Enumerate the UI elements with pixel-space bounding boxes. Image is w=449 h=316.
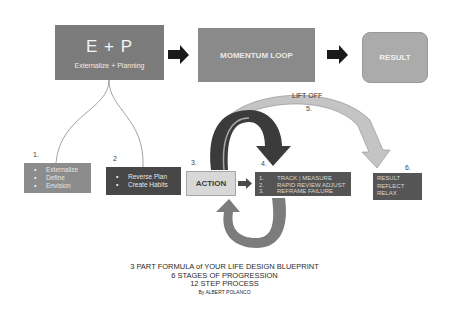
ep-box: E + P Externalize + Planning: [55, 25, 164, 80]
step-1-item: Envision: [34, 182, 87, 190]
branch-line-to-step2: [109, 80, 143, 167]
momentum-loop-box: MOMENTUM LOOP: [198, 28, 315, 82]
step-2-item: Reverse Plan: [116, 173, 177, 181]
arrow-right-small-icon: [238, 178, 252, 189]
action-label: ACTION: [196, 179, 227, 188]
step-6-item: REFLECT: [377, 183, 418, 191]
loop-top-arrow: [210, 110, 291, 170]
step-5-number: 5.: [306, 105, 312, 112]
step-6-number: 6.: [405, 164, 411, 171]
footer-caption: 3 PART FORMULA of YOUR LIFE DESIGN BLUEP…: [0, 263, 449, 296]
momentum-loop-label: MOMENTUM LOOP: [220, 51, 293, 60]
lift-off-arc-arrow: [218, 95, 390, 168]
action-box: ACTION: [186, 171, 236, 196]
footer-line-3: 12 STEP PROCESS: [0, 280, 449, 289]
branch-line-to-step1: [56, 80, 109, 163]
loop-bottom-arrow: [216, 198, 286, 248]
step-1-box: Externalize Define Envision: [24, 163, 91, 193]
step-6-item: RESULT: [377, 175, 418, 183]
step-4-number: 4.: [261, 160, 267, 167]
footer-byline: By ALBERT POLANCO: [0, 289, 449, 296]
step-4-box: 1. TRACK | MEASURE 2. RAPID REVIEW ADJUS…: [255, 172, 351, 196]
step-2-item: Create Habits: [116, 181, 177, 189]
lift-off-label: LIFT OFF: [292, 92, 322, 99]
step-1-item: Define: [34, 174, 87, 182]
step-2-number: 2: [113, 155, 117, 162]
step-1-item: Externalize: [34, 166, 87, 174]
result-box: RESULT: [362, 32, 428, 83]
step-4-item: 3. REFRAME FAILURE: [259, 188, 347, 195]
arrow-right-icon: [168, 45, 189, 64]
arrow-right-icon: [327, 45, 348, 64]
step-3-number: 3.: [191, 159, 197, 166]
result-label: RESULT: [379, 53, 410, 62]
step-6-item: RELAX: [377, 190, 418, 198]
step-2-box: Reverse Plan Create Habits: [106, 167, 181, 195]
step-6-box: RESULT REFLECT RELAX: [373, 173, 422, 200]
ep-title: E + P: [86, 37, 133, 57]
step-1-number: 1.: [33, 151, 39, 158]
ep-subtitle: Externalize + Planning: [75, 62, 145, 69]
